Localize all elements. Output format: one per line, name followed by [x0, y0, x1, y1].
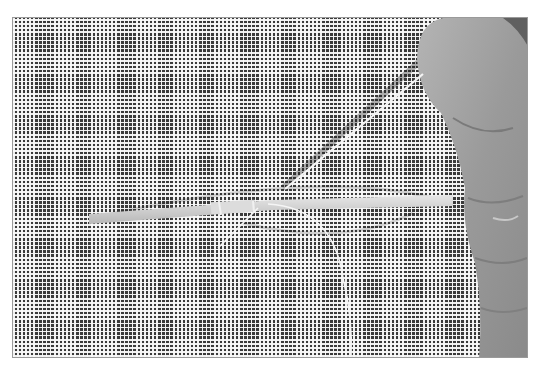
needle: [285, 74, 423, 189]
photo-scene: [13, 18, 528, 358]
suture-thread: [218, 204, 351, 358]
fingers: [417, 18, 528, 358]
photograph: [12, 17, 528, 358]
